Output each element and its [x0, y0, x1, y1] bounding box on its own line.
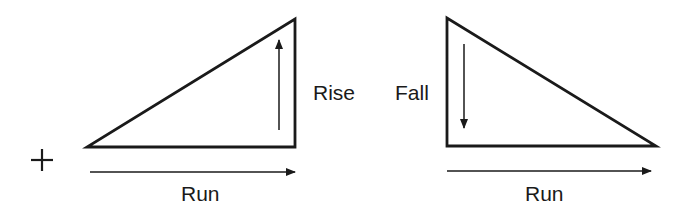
fall-label: Fall [395, 81, 429, 104]
rise-triangle [87, 19, 295, 147]
slope-diagram: Rise Run Fall Run [0, 0, 684, 212]
fall-triangle [447, 18, 656, 146]
right-run-label: Run [525, 182, 564, 205]
rise-label: Rise [313, 81, 355, 104]
left-run-label: Run [181, 182, 220, 205]
plus-icon [31, 149, 53, 171]
